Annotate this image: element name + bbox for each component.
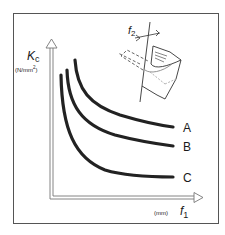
curve-label-c: C <box>183 172 192 184</box>
x-axis-arrow-icon <box>194 193 203 203</box>
y-axis-label: Kc <box>27 50 40 64</box>
x-axis-unit: (mm) <box>154 210 168 216</box>
curve-b <box>67 70 173 146</box>
y-axis-unit: (N/mm2) <box>15 66 38 73</box>
x-axis-label: f1 <box>180 205 188 220</box>
x-axis <box>50 193 203 203</box>
curve-label-a: A <box>183 122 191 134</box>
tool-feed-label: f2 <box>128 25 136 38</box>
curve-a <box>75 60 173 127</box>
y-axis-arrow-icon <box>46 39 57 48</box>
y-axis <box>46 39 57 199</box>
figure-frame <box>14 14 219 224</box>
curve-c <box>61 75 173 177</box>
diagram-canvas <box>0 0 225 235</box>
curve-label-b: B <box>183 141 191 153</box>
kc-vs-feed-diagram: Kc (N/mm2) f2 A B C (mm) f1 <box>0 0 225 235</box>
